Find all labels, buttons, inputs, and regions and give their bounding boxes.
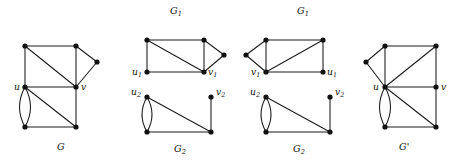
graph-vertex [263, 94, 268, 99]
panel-caption: G2 [174, 143, 186, 156]
panel-caption: G [57, 141, 65, 152]
graph-vertex [221, 52, 226, 57]
graph-edge [266, 97, 330, 132]
graph-multi-edge [20, 87, 26, 127]
panel-G2-left: u2v2G2 [131, 86, 225, 156]
graph-edge [385, 87, 436, 127]
graph-vertex [73, 43, 78, 48]
graph-vertex [327, 129, 332, 134]
panel-Gprime: uvG' [363, 43, 447, 152]
graph-vertex [433, 124, 438, 129]
graph-vertex [201, 69, 206, 74]
vertex-label: v1 [251, 66, 260, 79]
vertex-label: u1 [327, 66, 337, 79]
vertex-label: u2 [250, 86, 260, 99]
graph-multi-edge [266, 97, 271, 132]
graph-multi-edge [261, 97, 266, 132]
graph-figure: uvGu1v1G1u2v2G2v1u1G1u2v2G2uvG' [0, 0, 461, 162]
graph-vertex [263, 37, 268, 42]
graph-vertex [144, 37, 149, 42]
vertex-label: u [14, 81, 20, 92]
graph-vertex [263, 129, 268, 134]
graph-vertex [382, 43, 387, 48]
vertex-label: v2 [216, 86, 225, 99]
graph-vertex [73, 84, 78, 89]
graph-multi-edge [147, 97, 152, 132]
graph-vertex [201, 37, 206, 42]
panel-top-label: G1 [297, 5, 309, 18]
graph-vertex [243, 52, 248, 57]
panel-G1-left: u1v1G1 [132, 5, 227, 79]
graph-vertex [363, 59, 368, 64]
vertex-label: v2 [335, 86, 344, 99]
graph-vertex [327, 94, 332, 99]
graph-edge [366, 46, 385, 62]
graph-edge [76, 46, 97, 62]
graph-edge [204, 40, 224, 55]
vertex-label: u1 [132, 66, 142, 79]
graph-vertex [22, 84, 27, 89]
graph-multi-edge [380, 87, 386, 127]
panel-caption: G2 [293, 143, 305, 156]
graph-vertex [382, 124, 387, 129]
graph-vertex [208, 129, 213, 134]
graph-edge [147, 97, 211, 132]
graph-edge [76, 62, 97, 87]
graph-vertex [73, 124, 78, 129]
graph-vertex [94, 59, 99, 64]
vertex-label: v [81, 81, 87, 92]
graph-figure-svg: uvGu1v1G1u2v2G2v1u1G1u2v2G2uvG' [0, 0, 461, 162]
panel-G2-right: u2v2G2 [250, 86, 344, 156]
graph-vertex [263, 69, 268, 74]
graph-edge [266, 40, 323, 72]
graph-vertex [382, 84, 387, 89]
graph-vertex [433, 43, 438, 48]
graph-vertex [144, 69, 149, 74]
graph-vertex [22, 43, 27, 48]
graph-vertex [144, 129, 149, 134]
panel-caption: G' [399, 141, 409, 152]
graph-edge [246, 40, 266, 55]
graph-multi-edge [25, 87, 31, 127]
vertex-label: v [441, 81, 447, 92]
graph-vertex [144, 94, 149, 99]
panel-G: uvG [14, 43, 100, 152]
panel-G1-right: v1u1G1 [243, 5, 337, 79]
graph-edge [204, 55, 224, 72]
graph-edge [147, 40, 204, 72]
graph-edge [25, 87, 76, 127]
graph-vertex [22, 124, 27, 129]
vertex-label: u [373, 81, 379, 92]
panel-top-label: G1 [170, 5, 182, 18]
graph-vertex [320, 69, 325, 74]
graph-edge [385, 46, 436, 87]
vertex-label: v1 [208, 66, 217, 79]
graph-edge [25, 46, 76, 87]
graph-vertex [208, 94, 213, 99]
vertex-label: u2 [131, 86, 141, 99]
graph-vertex [320, 37, 325, 42]
graph-vertex [433, 84, 438, 89]
graph-multi-edge [142, 97, 147, 132]
graph-multi-edge [385, 87, 391, 127]
